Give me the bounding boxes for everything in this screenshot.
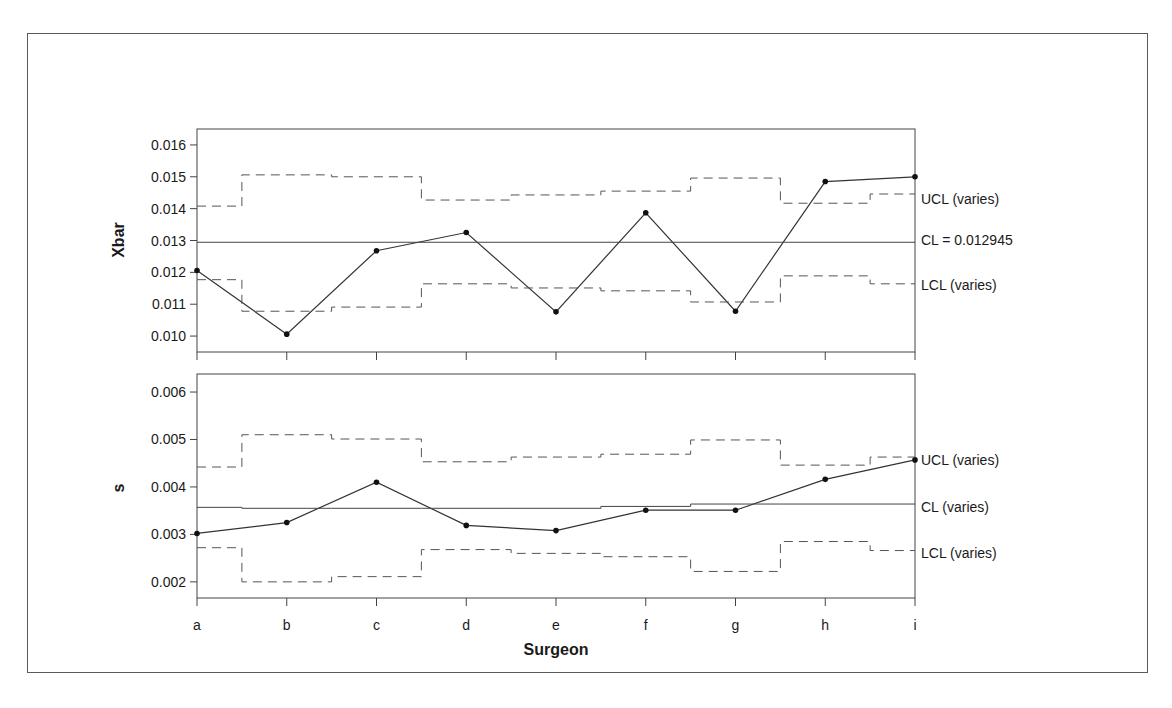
xbar-data-point: [553, 309, 559, 315]
s-cl-label: CL (varies): [921, 499, 989, 515]
xbar-lcl-label: LCL (varies): [921, 277, 997, 293]
x-category-labels: abcdefghi: [193, 617, 916, 633]
s-x-ticks: [197, 598, 915, 606]
xbar-data-point: [284, 331, 290, 337]
xbar-data-point: [194, 268, 200, 274]
x-category-label: i: [913, 617, 916, 633]
xbar-data-point: [643, 210, 649, 216]
xbar-chart-panel: 0.0100.0110.0120.0130.0140.0150.016 Xbar…: [110, 129, 1013, 360]
xbar-y-axis: 0.0100.0110.0120.0130.0140.0150.016: [151, 137, 197, 344]
s-series: [194, 435, 918, 582]
xbar-cl-label: CL = 0.012945: [921, 232, 1013, 248]
s-ucl-line: [197, 435, 915, 467]
x-axis-title: Surgeon: [524, 641, 589, 658]
control-chart: 0.0100.0110.0120.0130.0140.0150.016 Xbar…: [0, 0, 1172, 708]
xbar-series: [194, 174, 918, 337]
s-cl-line: [197, 504, 915, 508]
xbar-data-point: [374, 248, 380, 254]
xbar-data-point: [822, 179, 828, 185]
xbar-x-ticks: [197, 352, 915, 360]
xbar-plot-area: [197, 129, 915, 352]
s-axis-title: s: [110, 483, 127, 492]
s-data-point: [284, 520, 290, 526]
s-data-point: [194, 531, 200, 537]
xbar-y-tick-label: 0.015: [151, 169, 186, 185]
x-category-label: b: [283, 617, 291, 633]
s-data-point: [643, 507, 649, 513]
s-lcl-label: LCL (varies): [921, 545, 997, 561]
s-y-tick-label: 0.002: [151, 574, 186, 590]
s-data-point: [733, 507, 739, 513]
x-category-label: a: [193, 617, 201, 633]
xbar-data-point: [463, 230, 469, 236]
s-chart-panel: 0.0020.0030.0040.0050.006 s UCL (varies)…: [110, 374, 999, 606]
xbar-y-tick-label: 0.011: [152, 296, 186, 312]
xbar-y-tick-label: 0.010: [151, 328, 186, 344]
s-y-tick-label: 0.003: [151, 526, 186, 542]
x-category-label: g: [732, 617, 740, 633]
s-lcl-line: [197, 542, 915, 582]
s-data-point: [463, 523, 469, 529]
xbar-y-tick-label: 0.013: [151, 233, 186, 249]
s-data-point: [374, 479, 380, 485]
s-y-tick-label: 0.006: [151, 384, 186, 400]
xbar-data-point: [912, 174, 918, 180]
x-category-label: f: [644, 617, 648, 633]
s-data-point: [822, 477, 828, 483]
xbar-y-tick-label: 0.016: [151, 137, 186, 153]
xbar-lcl-line: [197, 276, 915, 311]
s-y-tick-label: 0.005: [151, 431, 186, 447]
s-data-point: [553, 528, 559, 534]
s-data-line: [197, 460, 915, 534]
x-category-label: h: [821, 617, 829, 633]
xbar-axis-title: Xbar: [110, 222, 127, 258]
s-ucl-label: UCL (varies): [921, 452, 999, 468]
x-category-label: e: [552, 617, 560, 633]
xbar-data-point: [733, 308, 739, 314]
xbar-y-tick-label: 0.012: [151, 264, 186, 280]
x-category-label: d: [462, 617, 470, 633]
x-category-label: c: [373, 617, 380, 633]
s-y-tick-label: 0.004: [151, 479, 186, 495]
xbar-ucl-line: [197, 175, 915, 206]
s-y-axis: 0.0020.0030.0040.0050.006: [151, 384, 197, 590]
xbar-y-tick-label: 0.014: [151, 201, 186, 217]
s-data-point: [912, 457, 918, 463]
xbar-ucl-label: UCL (varies): [921, 191, 999, 207]
